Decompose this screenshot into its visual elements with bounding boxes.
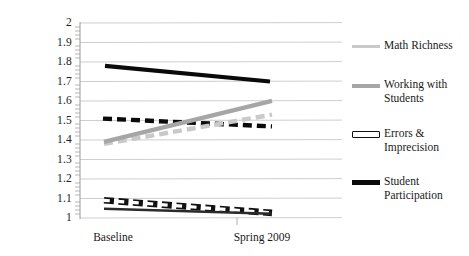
legend-label: Working with Students [384,77,469,105]
x-axis-tick-label-spring-2009: Spring 2009 [234,231,291,243]
legend-label: Errors & Imprecision [384,126,469,154]
legend-item-student-participation[interactable]: Student Participation [352,174,469,202]
chart-figure: 2 1.9 1.8 1.7 1.6 1.5 1.4 1.3 1.2 1.1 1 [0,0,469,256]
series-line-errors-imprecision-solid [104,209,272,214]
series-line-student-participation [105,66,270,82]
y-axis-spine [75,22,80,219]
legend-item-working-with-students[interactable]: Working with Students [352,77,469,105]
legend-line-icon [352,80,380,92]
legend-line-icon [352,177,380,189]
series-line-working-with-students [104,101,272,142]
legend-line-icon [352,41,380,53]
legend-item-math-richness[interactable]: Math Richness [352,38,469,53]
legend-label: Math Richness [384,38,453,52]
x-axis-tick-label-baseline: Baseline [93,231,133,243]
legend-item-errors-imprecision[interactable]: Errors & Imprecision [352,126,469,154]
legend-hollow-line-icon [352,129,380,141]
legend-label: Student Participation [384,174,469,202]
